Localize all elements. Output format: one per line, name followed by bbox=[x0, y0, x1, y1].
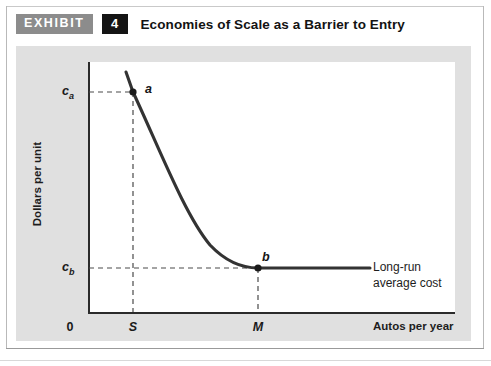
y-axis-title: Dollars per unit bbox=[31, 124, 43, 244]
frame-rule-top bbox=[6, 6, 484, 7]
exhibit-number-badge: 4 bbox=[102, 14, 128, 34]
curve-legend-label: Long-run average cost bbox=[373, 259, 442, 291]
chart-panel bbox=[16, 46, 471, 341]
x-axis-line bbox=[88, 312, 455, 314]
exhibit-header: EXHIBIT 4 Economies of Scale as a Barrie… bbox=[16, 12, 405, 36]
y-tick-cost-a: ca bbox=[62, 84, 74, 101]
x-axis-title: Autos per year bbox=[373, 320, 454, 332]
curve-legend-line1: Long-run bbox=[373, 259, 442, 275]
data-point-label-b: b bbox=[262, 250, 270, 264]
frame-rule-right bbox=[483, 6, 484, 348]
frame-rule-bottom-secondary bbox=[0, 360, 491, 361]
x-tick-s: S bbox=[125, 320, 141, 334]
frame-rule-bottom bbox=[6, 348, 484, 349]
exhibit-page: EXHIBIT 4 Economies of Scale as a Barrie… bbox=[0, 0, 491, 366]
exhibit-tag-label: EXHIBIT bbox=[16, 14, 93, 34]
y-tick-cost-a-base: c bbox=[62, 84, 69, 98]
curve-legend-line2: average cost bbox=[373, 275, 442, 291]
frame-rule-left bbox=[6, 6, 7, 348]
x-tick-m: M bbox=[250, 320, 266, 334]
y-axis-line bbox=[88, 62, 90, 314]
y-tick-cost-b-base: c bbox=[62, 260, 69, 274]
x-tick-origin: 0 bbox=[62, 320, 78, 334]
page-title: Economies of Scale as a Barrier to Entry bbox=[141, 17, 405, 32]
y-tick-cost-a-subscript: a bbox=[69, 91, 74, 101]
data-point-label-a: a bbox=[145, 82, 152, 96]
y-tick-cost-b: cb bbox=[62, 260, 74, 277]
y-tick-cost-b-subscript: b bbox=[69, 267, 75, 277]
